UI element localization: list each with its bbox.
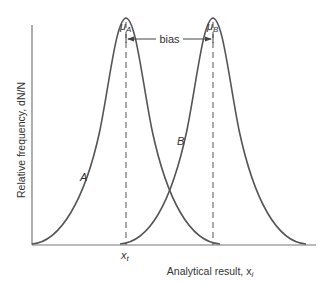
gaussian-bias-diagram: bias μA μB A B xt Analytical result, xi …: [0, 0, 330, 285]
bias-label: bias: [159, 33, 180, 45]
curve-b-label: B: [177, 135, 184, 147]
curve-b: [120, 18, 306, 244]
curve-a: [32, 18, 220, 244]
xt-label: xt: [120, 249, 130, 263]
y-axis-label: Relative frequency, dN/N: [15, 82, 27, 198]
x-axis-label: Analytical result, xi: [167, 265, 254, 279]
curve-a-label: A: [79, 171, 87, 183]
